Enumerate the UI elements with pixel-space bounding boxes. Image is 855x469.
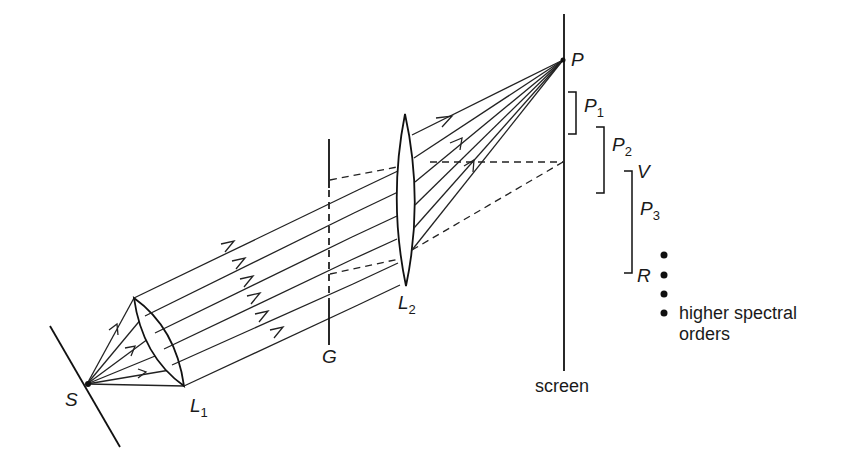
dashed-reference-lines (412, 162, 563, 250)
label-order-p2: P2 (612, 134, 632, 159)
grating-spectrometer-diagram: S L1 G L2 screen P P1 P2 V P3 R higher s… (0, 0, 855, 469)
label-screen: screen (535, 376, 589, 396)
bracket-p2 (596, 127, 604, 193)
label-higher-orders-2: orders (679, 324, 730, 344)
label-order-p1: P1 (584, 95, 604, 120)
bracket-p1 (568, 92, 576, 134)
lens-l2 (397, 114, 415, 286)
label-point-p: P (571, 49, 584, 70)
bracket-p3 (624, 171, 632, 273)
label-lens1: L1 (190, 395, 208, 420)
label-source: S (65, 389, 78, 410)
label-higher-orders-1: higher spectral (679, 303, 797, 323)
focal-point-p (561, 58, 566, 63)
source-point (85, 381, 91, 387)
converging-rays (412, 60, 563, 250)
lens-l1 (134, 298, 184, 386)
label-red: R (637, 265, 651, 286)
label-grating: G (322, 346, 337, 367)
higher-order-dots (661, 252, 668, 317)
label-order-p3: P3 (640, 198, 660, 223)
label-lens2: L2 (398, 292, 416, 317)
label-violet: V (637, 161, 652, 182)
